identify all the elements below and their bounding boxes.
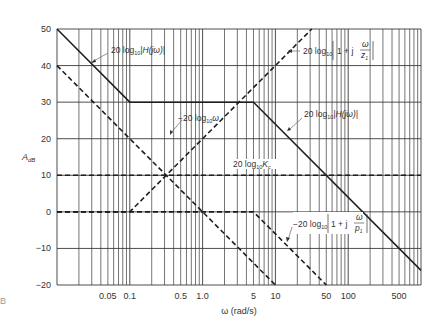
annotation-zero: 20 log10 1 + j ω z1 xyxy=(288,39,373,61)
plot-series xyxy=(57,29,421,285)
x-tick-label: 5 xyxy=(251,291,256,301)
svg-text:20 log10|H(jω)|: 20 log10|H(jω)| xyxy=(304,109,358,120)
y-tick-label: −20 xyxy=(36,280,51,290)
y-tick-label: 30 xyxy=(41,97,51,107)
x-tick-label: 100 xyxy=(341,291,356,301)
x-tick-label: 0.05 xyxy=(99,291,117,301)
plot-grid xyxy=(57,29,421,285)
x-tick-label: 0.5 xyxy=(174,291,187,301)
svg-text:20 log10|H(jω)|: 20 log10|H(jω)| xyxy=(111,45,165,56)
x-tick-label: 50 xyxy=(321,291,331,301)
svg-text:ω: ω xyxy=(356,212,363,222)
x-axis-ticks: 0.050.10.51.051050100500 xyxy=(99,291,406,301)
svg-text:20 log10Kc: 20 log10Kc xyxy=(233,159,271,170)
annotation-h-low: 20 log10|H(jω)| xyxy=(91,45,165,63)
y-tick-label: 40 xyxy=(41,61,51,71)
y-tick-label: 10 xyxy=(41,170,51,180)
y-tick-label: 0 xyxy=(46,207,51,217)
x-tick-label: 0.1 xyxy=(124,291,137,301)
svg-text:−20 log10ω: −20 log10ω xyxy=(178,113,219,124)
svg-text:z1: z1 xyxy=(360,50,368,61)
annotation-gain: 20 log10Kc xyxy=(232,159,280,170)
y-axis-label: AdB xyxy=(21,152,35,163)
svg-text:ω: ω xyxy=(362,39,369,49)
y-tick-label: 50 xyxy=(41,24,51,34)
annotation-integrator: −20 log10ω xyxy=(170,113,219,135)
x-axis-label: ω (rad/s) xyxy=(221,306,257,316)
svg-text:20 log10: 20 log10 xyxy=(303,46,332,57)
y-tick-label: −10 xyxy=(36,243,51,253)
svg-text:1 + j: 1 + j xyxy=(331,219,347,229)
x-tick-label: 1.0 xyxy=(196,291,209,301)
svg-text:1 + j: 1 + j xyxy=(337,46,353,56)
x-tick-label: 10 xyxy=(270,291,280,301)
page-fragment-mark: B xyxy=(0,296,6,306)
x-tick-label: 500 xyxy=(392,291,407,301)
y-tick-label: 20 xyxy=(41,134,51,144)
bode-plot: 50403020100−10−20 0.050.10.51.0510501005… xyxy=(0,0,437,326)
y-axis-ticks: 50403020100−10−20 xyxy=(36,24,51,290)
